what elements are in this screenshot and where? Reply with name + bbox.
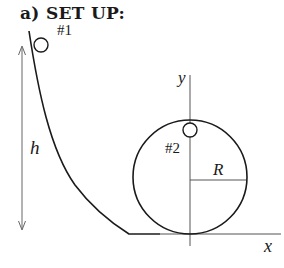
setup-diagram: a) SET UP: #1 h y #2 R x (0, 0, 284, 268)
ball-1 (34, 38, 48, 52)
diagram-canvas (0, 0, 284, 268)
ball-1-label: #1 (57, 22, 72, 39)
ball-2 (183, 123, 197, 137)
y-axis-label: y (178, 68, 186, 88)
diagram-title: a) SET UP: (20, 3, 125, 23)
height-arrow (19, 46, 26, 230)
ball-2-label: #2 (165, 140, 180, 157)
radius-label: R (213, 160, 223, 180)
height-label: h (30, 137, 40, 159)
x-axis-label: x (264, 236, 272, 257)
